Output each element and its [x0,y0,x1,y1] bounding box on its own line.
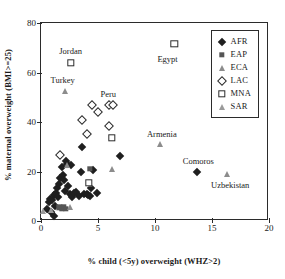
legend-label: SAR [231,102,248,111]
y-tick-mark [37,172,42,173]
legend-marker-filled-triangle-icon [217,62,228,73]
marker-filled-triangle [64,162,70,168]
legend-marker-open-triangle-icon [217,101,228,112]
annotation-label: Comoros [183,157,214,166]
annotation-label: Turkey [51,76,75,85]
legend-item-lac[interactable]: LAC [217,74,251,87]
marker-filled-diamond [193,168,201,176]
legend-item-eap[interactable]: EAP [217,48,251,61]
legend-label: MNA [231,89,251,98]
marker-open-triangle [219,104,225,110]
legend-label: EAP [231,50,248,59]
x-tick-label: 0 [39,224,44,233]
marker-open-square [108,134,115,141]
y-tick-label: 40 [27,118,36,127]
marker-open-diamond [217,76,227,86]
y-tick-label: 20 [27,167,36,176]
marker-filled-square [219,52,224,57]
legend-marker-filled-square-icon [217,49,228,60]
legend-marker-open-diamond-icon [217,75,228,86]
x-tick-label: 20 [265,224,274,233]
annotation-label: Peru [100,89,116,98]
marker-open-square [67,59,74,66]
annotation-label: Uzbekistan [211,181,249,190]
y-tick-label: 80 [27,19,36,28]
marker-open-square [218,90,225,97]
marker-filled-diamond [77,167,85,175]
annotation-label: Jordan [59,47,82,56]
legend-label: ECA [231,63,249,72]
x-tick-label: 10 [151,224,160,233]
marker-open-diamond [77,115,87,125]
y-tick-mark [37,122,42,123]
annotation-label: Armenia [147,130,177,139]
annotation-label: Egypt [157,55,177,64]
x-tick-label: 5 [96,224,101,233]
legend-label: LAC [231,76,249,85]
marker-filled-triangle [109,166,115,172]
marker-open-square [85,179,92,186]
y-axis-label: % maternal overweight (BMI>=25) [3,15,13,215]
marker-open-triangle [40,208,46,214]
marker-filled-diamond [78,143,86,151]
legend: AFREAPECALACMNASAR [211,30,259,118]
y-tick-mark [37,73,42,74]
legend-item-afr[interactable]: AFR [217,35,251,48]
x-tick-label: 15 [208,224,217,233]
marker-open-diamond [93,107,103,117]
scatter-chart-figure: 020406080 05101520 JordanEgyptTurkeyPeru… [0,0,285,279]
legend-marker-open-square-icon [217,88,228,99]
legend-label: AFR [231,37,248,46]
marker-filled-diamond [115,152,123,160]
marker-open-square [171,40,178,47]
marker-filled-diamond [218,37,226,45]
marker-open-diamond [104,122,114,132]
y-tick-mark [37,23,42,24]
marker-filled-triangle [67,204,73,210]
marker-filled-triangle [157,141,163,147]
marker-filled-triangle [62,88,68,94]
legend-item-sar[interactable]: SAR [217,100,251,113]
y-tick-label: 0 [32,217,37,226]
legend-item-mna[interactable]: MNA [217,87,251,100]
x-axis-label: % child (<5y) overweight (WHZ>2) [40,256,268,266]
marker-open-diamond [82,129,92,139]
plot-area: 020406080 05101520 JordanEgyptTurkeyPeru… [40,22,268,220]
marker-filled-triangle [219,65,225,71]
marker-filled-square [87,166,92,171]
marker-open-triangle [48,207,54,213]
legend-item-eca[interactable]: ECA [217,61,251,74]
marker-filled-triangle [224,171,230,177]
legend-marker-filled-diamond-icon [217,36,228,47]
y-tick-label: 60 [27,68,36,77]
